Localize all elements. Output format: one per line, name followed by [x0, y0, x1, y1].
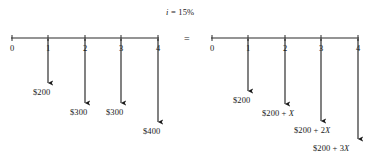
amount-variable: X: [289, 108, 294, 118]
cash-flow-amount-label: $200 + 2X: [294, 126, 330, 135]
interest-rate-title: i = 15%: [166, 8, 194, 17]
cash-flow-figure: i = 15% = 01234$200$300$300$40001234$200…: [0, 0, 383, 159]
tick-label: 3: [319, 44, 323, 53]
cash-flow-amount-label: $300: [70, 108, 87, 117]
tick-label: 1: [46, 44, 50, 53]
tick-label: 0: [210, 44, 214, 53]
amount-variable: X: [344, 143, 349, 153]
tick-label: 2: [283, 44, 287, 53]
tick-label: 4: [356, 44, 360, 53]
cash-flow-amount-label: $200 + 3X: [313, 144, 349, 153]
amount-prefix: $200 + 3: [313, 143, 344, 153]
cash-flow-amount-label: $200 + X: [262, 109, 294, 118]
figure-canvas: [0, 0, 383, 159]
tick-label: 4: [156, 44, 160, 53]
tick-label: 1: [246, 44, 250, 53]
amount-variable: X: [325, 125, 330, 135]
amount-prefix: $200 + 2: [294, 125, 325, 135]
cash-flow-amount-label: $200: [33, 88, 50, 97]
tick-label: 0: [10, 44, 14, 53]
cash-flow-amount-label: $200: [233, 96, 250, 105]
tick-label: 2: [83, 44, 87, 53]
cash-flow-amount-label: $400: [143, 127, 160, 136]
amount-prefix: $200 +: [262, 108, 289, 118]
tick-label: 3: [119, 44, 123, 53]
equals-sign: =: [184, 34, 190, 44]
cash-flow-amount-label: $300: [106, 108, 123, 117]
interest-rate-value: = 15%: [169, 7, 195, 17]
